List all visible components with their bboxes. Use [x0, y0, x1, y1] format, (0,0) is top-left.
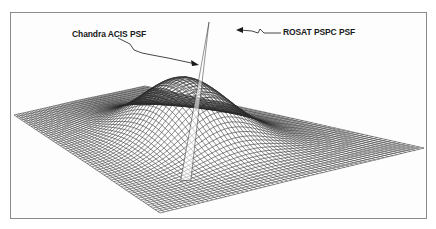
psf-wireframe-mesh — [14, 22, 424, 213]
psf-surface-plot — [0, 0, 436, 229]
rosat-pspc-psf-label: ROSAT PSPC PSF — [283, 27, 355, 37]
chandra-arrow-icon — [118, 38, 199, 66]
chandra-acis-psf-label: Chandra ACIS PSF — [72, 29, 146, 39]
rosat-arrow-icon — [236, 27, 281, 33]
